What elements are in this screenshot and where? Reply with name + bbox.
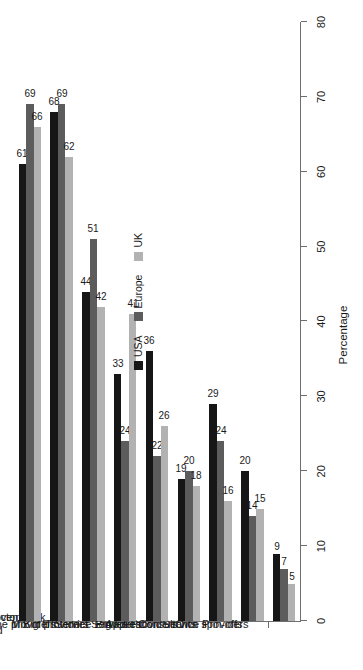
bar-group: 445142 [78, 22, 110, 621]
bar-row: 20 [185, 22, 193, 621]
bar-usa [273, 554, 281, 621]
chart-legend: USAEuropeUK [132, 233, 144, 370]
value-tick-mark [301, 96, 307, 97]
bar-uk [161, 426, 169, 621]
legend-entry-europe: Europe [132, 275, 144, 322]
bar-uk [224, 501, 232, 621]
bar-usa [178, 479, 186, 621]
bar-row: 20 [241, 22, 249, 621]
bar-row: 42 [97, 22, 105, 621]
legend-label: Europe [132, 275, 144, 309]
bar-usa [241, 471, 249, 621]
bar-group: 362226 [141, 22, 173, 621]
value-tick-mark [301, 620, 307, 621]
value-tick-mark [301, 21, 307, 22]
bar-row: 24 [121, 22, 129, 621]
bar-row: 24 [217, 22, 225, 621]
bar-row: 29 [209, 22, 217, 621]
legend-swatch-icon [134, 252, 143, 261]
value-tick-label: 40 [315, 315, 327, 327]
bar-row: 36 [146, 22, 154, 621]
bar-row: 44 [82, 22, 90, 621]
bar-row: 7 [280, 22, 288, 621]
bar-value-label: 62 [64, 142, 75, 152]
value-tick-label: 50 [315, 241, 327, 253]
bar-value-label: 26 [159, 412, 170, 422]
bar-group: 616966 [14, 22, 46, 621]
bar-row: 68 [50, 22, 58, 621]
bar-group: 686962 [46, 22, 78, 621]
value-tick-mark [301, 545, 307, 546]
value-axis-title: Percentage [337, 0, 349, 670]
plot-canvas: 01020304050607080 Those with industry se… [0, 0, 363, 670]
bar-group: 201415 [236, 22, 268, 621]
bar-row: 51 [90, 22, 98, 621]
bar-europe [26, 104, 34, 621]
bar-usa [146, 351, 154, 621]
legend-entry-uk: UK [132, 233, 144, 261]
bar-value-label: 42 [95, 292, 106, 302]
bar-europe [249, 516, 257, 621]
value-tick-mark [301, 470, 307, 471]
bar-europe [153, 456, 161, 621]
value-tick-label: 80 [315, 16, 327, 28]
bar-row: 5 [288, 22, 296, 621]
value-tick-mark [301, 395, 307, 396]
bar-usa [114, 374, 122, 621]
legend-entry-usa: USA [132, 335, 144, 370]
bar-europe [185, 471, 193, 621]
bar-usa [209, 404, 217, 621]
bar-value-label: 5 [289, 572, 295, 582]
bar-uk [97, 307, 105, 621]
value-tick-label: 10 [315, 540, 327, 552]
bar-row: 22 [153, 22, 161, 621]
bar-row: 66 [34, 22, 42, 621]
value-tick-label: 70 [315, 91, 327, 103]
bar-value-label: 9 [274, 542, 280, 552]
bar-row: 26 [161, 22, 169, 621]
bar-usa [19, 164, 27, 621]
legend-label: UK [132, 233, 144, 248]
value-tick-mark [301, 321, 307, 322]
legend-label: USA [132, 335, 144, 357]
legend-swatch-icon [134, 361, 143, 370]
bar-usa [50, 112, 58, 621]
bar-row: 61 [19, 22, 27, 621]
value-axis-line [300, 22, 301, 622]
bar-chart-figure: 01020304050607080 Those with industry se… [0, 0, 363, 670]
bar-europe [217, 441, 225, 621]
value-tick-mark [301, 171, 307, 172]
bar-value-label: 18 [191, 472, 202, 482]
bar-row: 18 [193, 22, 201, 621]
bar-uk [256, 509, 264, 621]
value-tick-label: 30 [315, 390, 327, 402]
bar-row: 16 [224, 22, 232, 621]
bar-value-label: 16 [222, 487, 233, 497]
bar-row: 14 [249, 22, 257, 621]
bar-row: 62 [65, 22, 73, 621]
bars-area: 6169666869624451423324413622261920182924… [14, 22, 300, 621]
bar-row: 33 [114, 22, 122, 621]
bar-uk [34, 127, 42, 621]
bar-row: 69 [58, 22, 66, 621]
legend-swatch-icon [134, 312, 143, 321]
bar-row: 9 [273, 22, 281, 621]
value-tick-label: 60 [315, 166, 327, 178]
bar-europe [121, 441, 129, 621]
bar-group: 192018 [173, 22, 205, 621]
bar-uk [288, 584, 296, 621]
bar-row: 19 [178, 22, 186, 621]
bar-group: 975 [268, 22, 300, 621]
bar-row: 15 [256, 22, 264, 621]
value-tick-label: 0 [315, 618, 327, 624]
bar-uk [65, 157, 73, 621]
bar-value-label: 15 [254, 494, 265, 504]
bar-uk [193, 486, 201, 621]
bar-group: 292416 [205, 22, 237, 621]
bar-europe [58, 104, 66, 621]
bar-value-label: 7 [281, 557, 287, 567]
value-tick-mark [301, 246, 307, 247]
bar-value-label: 66 [32, 112, 43, 122]
value-tick-label: 20 [315, 465, 327, 477]
bar-usa [82, 292, 90, 621]
